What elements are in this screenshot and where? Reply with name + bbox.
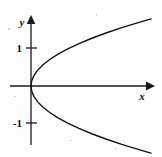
- figure-container: 1 -1 y x: [0, 0, 162, 157]
- curve-upper-branch: [31, 19, 151, 86]
- x-axis-label: x: [138, 90, 145, 102]
- y-tick-label-negative-one: -1: [13, 117, 22, 129]
- curve-lower-branch: [31, 86, 151, 153]
- scan-noise: [8, 14, 152, 150]
- x-axis-arrow-icon: [146, 82, 155, 91]
- parabola-plot: 1 -1 y x: [0, 0, 162, 157]
- y-tick-label-positive-one: 1: [17, 42, 23, 54]
- y-axis-arrow-icon: [27, 15, 36, 24]
- y-axis-label: y: [18, 16, 25, 28]
